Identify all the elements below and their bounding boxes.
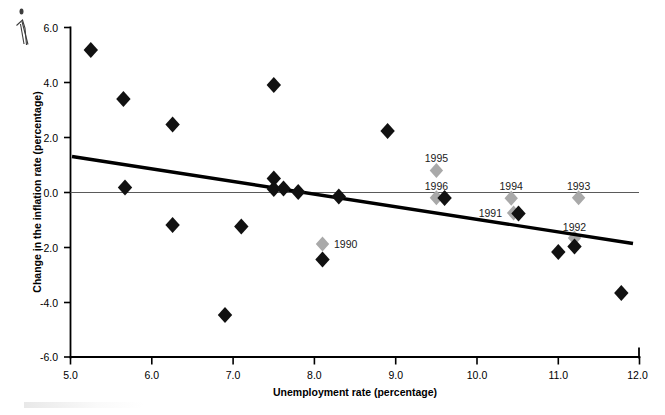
x-tick-label: 11.0 [548, 369, 568, 381]
regression-trend-line [72, 157, 633, 244]
data-point[interactable] [276, 181, 290, 197]
label-1991: 1991 [479, 207, 503, 219]
y-axis-title: Change in the inflation rate (percentage… [31, 91, 43, 292]
data-point[interactable] [567, 239, 581, 255]
data-point[interactable] [84, 42, 98, 58]
x-tick-label: 6.0 [144, 369, 159, 381]
y-tick-label: 2.0 [43, 132, 58, 144]
data-point-1990[interactable] [316, 237, 329, 252]
y-tick-label: -4.0 [40, 297, 58, 309]
x-tick-label: 10.0 [467, 369, 488, 381]
label-1996: 1996 [425, 180, 449, 192]
data-point[interactable] [380, 123, 394, 139]
label-1995: 1995 [425, 152, 449, 164]
x-tick-marks [71, 357, 640, 365]
x-tick-label: 5.0 [63, 369, 78, 381]
data-point[interactable] [267, 77, 281, 93]
y-tick-label: 0.0 [43, 187, 58, 199]
observation-markers [84, 42, 629, 323]
label-1990: 1990 [334, 238, 358, 250]
data-point[interactable] [165, 117, 179, 133]
data-point[interactable] [315, 252, 329, 268]
data-point[interactable] [116, 91, 130, 107]
y-tick-label: -6.0 [40, 351, 58, 363]
x-tick-label: 12.0 [627, 369, 648, 381]
axes-group [64, 28, 640, 365]
x-tick-label: 8.0 [307, 369, 322, 381]
x-tick-label: 9.0 [388, 369, 403, 381]
label-1992: 1992 [563, 221, 587, 233]
scan-artifact-mark [17, 9, 29, 46]
phillips-curve-scatter-figure: 6.0 4.0 2.0 0.0 -2.0 -4.0 -6.0 5.0 6.0 7… [0, 0, 665, 415]
year-label-group: 1990 1991 1992 1993 1994 1995 1996 [334, 152, 590, 250]
data-point[interactable] [551, 244, 565, 260]
chart-canvas: 6.0 4.0 2.0 0.0 -2.0 -4.0 -6.0 5.0 6.0 7… [0, 0, 665, 415]
x-axis-tick-labels: 5.0 6.0 7.0 8.0 9.0 10.0 11.0 12.0 [63, 369, 648, 381]
data-point[interactable] [165, 217, 179, 233]
data-point[interactable] [234, 219, 248, 235]
y-tick-marks [64, 28, 71, 358]
x-axis-title: Unemployment rate (percentage) [273, 386, 437, 398]
label-1993: 1993 [567, 180, 591, 192]
label-1994: 1994 [500, 180, 524, 192]
data-point[interactable] [291, 184, 305, 200]
data-point[interactable] [218, 307, 232, 323]
y-tick-label: 4.0 [43, 77, 58, 89]
data-point[interactable] [614, 285, 628, 301]
x-tick-label: 7.0 [226, 369, 241, 381]
page-edge-artifact [24, 402, 144, 408]
y-tick-label: 6.0 [43, 22, 58, 34]
data-point[interactable] [118, 180, 132, 196]
data-point[interactable] [332, 189, 346, 205]
data-point-1995[interactable] [430, 163, 443, 178]
